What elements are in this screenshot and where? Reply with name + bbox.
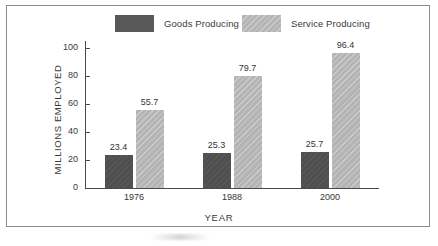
bar-2000-goods [301,152,329,188]
legend-swatch-goods-producing [115,15,154,32]
bar-value-label: 25.7 [295,139,335,149]
legend-swatch-service-producing [242,15,281,32]
chart-legend: Goods Producing Service Producing [0,13,438,35]
legend-item-service-producing: Service Producing [242,13,370,33]
legend-label-service-producing: Service Producing [291,18,370,29]
bar-value-label: 79.7 [228,63,268,73]
x-axis-tick-label-2000: 2000 [305,192,355,202]
bar-1976-service [136,110,164,188]
legend-item-goods-producing: Goods Producing [115,13,239,33]
bar-value-label: 23.4 [99,142,139,152]
bar-value-label: 55.7 [130,97,170,107]
y-axis-title: MILLIONS EMPLOYED [52,45,63,195]
scan-artifact [150,234,210,240]
bar-1988-service [234,76,262,188]
bar-value-label: 96.4 [326,40,366,50]
bar-1976-goods [105,155,133,188]
bar-chart-figure: Goods Producing Service Producing 020406… [0,0,438,246]
bar-value-label: 25.3 [197,140,237,150]
plot-area: 23.455.725.379.725.796.4 [85,44,379,188]
bar-2000-service [332,53,360,188]
y-axis-tick-mark [85,188,90,189]
bar-1988-goods [203,153,231,188]
x-axis-tick-label-1988: 1988 [207,192,257,202]
x-axis-tick-label-1976: 1976 [109,192,159,202]
legend-label-goods-producing: Goods Producing [164,18,239,29]
x-axis-line [85,188,379,189]
x-axis-title: YEAR [0,212,438,223]
